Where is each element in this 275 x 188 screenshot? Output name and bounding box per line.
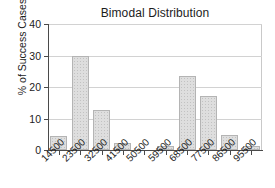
chart-title: Bimodal Distribution <box>48 6 262 20</box>
bar-chart: Bimodal Distribution % of Success Cases … <box>0 0 275 188</box>
y-tick-label: 20 <box>29 81 41 93</box>
y-tick-label: 30 <box>29 50 41 62</box>
y-tick-label: 10 <box>29 113 41 125</box>
x-tick-mark <box>187 151 188 155</box>
x-tick-mark <box>144 151 145 155</box>
x-tick-mark <box>251 151 252 155</box>
bars-layer <box>48 24 262 150</box>
y-tick-label: 40 <box>29 18 41 30</box>
y-axis-title: % of Success Cases <box>16 0 28 110</box>
x-tick-mark <box>80 151 81 155</box>
